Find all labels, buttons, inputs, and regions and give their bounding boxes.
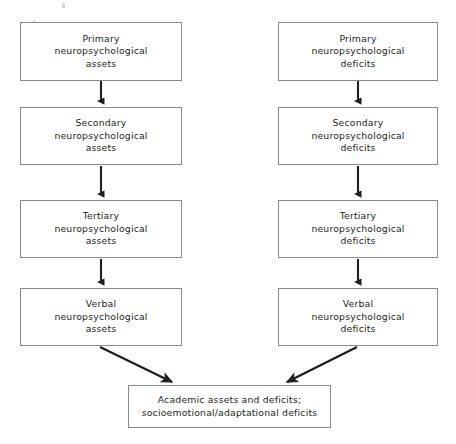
- node-label: Secondary neuropsychological deficits: [307, 117, 408, 155]
- node-label: Secondary neuropsychological assets: [50, 117, 151, 155]
- node-tertiary-deficits: Tertiary neuropsychological deficits: [278, 200, 438, 258]
- node-secondary-deficits: Secondary neuropsychological deficits: [278, 107, 438, 165]
- flowchart-figure: Primary neuropsychological assets Second…: [0, 0, 456, 444]
- node-verbal-deficits: Verbal neuropsychological deficits: [278, 288, 438, 346]
- node-label: Tertiary neuropsychological assets: [50, 210, 151, 248]
- node-label: Primary neuropsychological deficits: [307, 33, 408, 71]
- node-secondary-assets: Secondary neuropsychological assets: [20, 107, 182, 165]
- node-label: Primary neuropsychological assets: [50, 33, 151, 71]
- node-verbal-assets: Verbal neuropsychological assets: [20, 288, 182, 346]
- node-primary-deficits: Primary neuropsychological deficits: [278, 22, 438, 81]
- arrow-assets-outcome: [100, 347, 172, 382]
- node-label: Tertiary neuropsychological deficits: [307, 210, 408, 248]
- arrow-deficits-outcome: [287, 347, 357, 382]
- node-label: Verbal neuropsychological assets: [50, 298, 151, 336]
- node-label: Academic assets and deficits; socioemoti…: [138, 394, 322, 419]
- node-label: Verbal neuropsychological deficits: [307, 298, 408, 336]
- node-tertiary-assets: Tertiary neuropsychological assets: [20, 200, 182, 258]
- node-academic-outcome: Academic assets and deficits; socioemoti…: [128, 385, 331, 428]
- node-primary-assets: Primary neuropsychological assets: [20, 22, 182, 81]
